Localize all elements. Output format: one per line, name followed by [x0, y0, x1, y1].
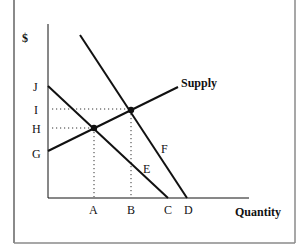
demand-curve-upper — [80, 35, 187, 198]
price-label-h: H — [32, 122, 41, 136]
equilibrium-point-lower — [91, 125, 97, 131]
quantity-label-b: B — [127, 203, 135, 217]
quantity-label-d: D — [184, 203, 193, 217]
quantity-label-c: C — [164, 203, 172, 217]
supply-demand-diagram: $ Quantity J I H G A B C D Supply E F — [0, 0, 302, 250]
supply-label: Supply — [181, 76, 217, 90]
supply-curve — [48, 87, 178, 151]
price-label-j: J — [33, 80, 38, 94]
y-axis-label: $ — [22, 31, 28, 45]
price-label-g: G — [32, 147, 41, 161]
point-label-f: F — [161, 142, 168, 156]
equilibrium-point-upper — [128, 107, 134, 113]
x-axis-label: Quantity — [235, 205, 281, 219]
point-label-e: E — [143, 162, 150, 176]
quantity-label-a: A — [89, 203, 98, 217]
price-label-i: I — [34, 103, 38, 117]
